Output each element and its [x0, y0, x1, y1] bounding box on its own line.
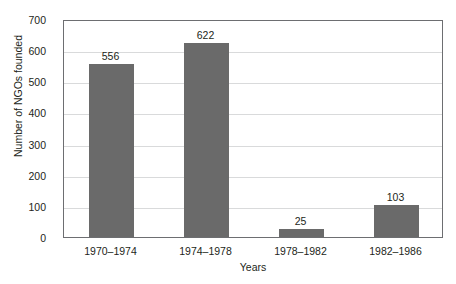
bar-value-label: 622: [176, 30, 236, 41]
bar: [89, 64, 134, 237]
x-axis-tick-label: 1974–1978: [159, 246, 253, 257]
y-axis-tick-label: 0: [6, 233, 46, 243]
bar-value-label: 103: [366, 192, 426, 203]
x-axis-tick-label: 1970–1974: [64, 246, 158, 257]
x-axis-tick-label: 1982–1986: [349, 246, 443, 257]
bar: [184, 43, 229, 237]
x-axis-tick-label: 1978–1982: [254, 246, 348, 257]
y-axis-tick-label: 100: [6, 202, 46, 212]
bar: [279, 229, 324, 237]
y-axis-tick-labels: 7006005004003002001000: [0, 0, 63, 284]
bar-value-label: 25: [271, 216, 331, 227]
x-axis-title: Years: [193, 261, 313, 273]
bar-value-label: 556: [81, 51, 141, 62]
y-axis-title: Number of NGOs founded: [12, 16, 24, 176]
bar-chart-figure: 7006005004003002001000 Number of NGOs fo…: [0, 0, 456, 284]
bar: [374, 205, 419, 237]
